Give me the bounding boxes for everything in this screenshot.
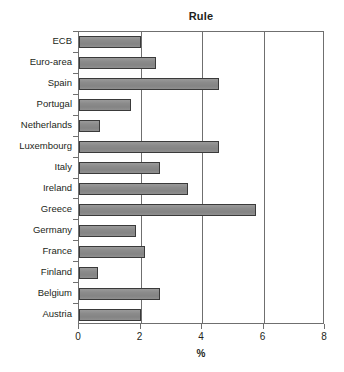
y-axis-label-finland: Finland <box>0 267 72 277</box>
bar-row <box>79 304 323 325</box>
y-axis-label-ecb: ECB <box>0 36 72 46</box>
bar-ireland <box>79 183 188 195</box>
bars-layer <box>79 32 323 323</box>
bar-france <box>79 246 145 258</box>
bar-austria <box>79 309 141 321</box>
bar-row <box>79 53 323 74</box>
bar-belgium <box>79 288 160 300</box>
bar-ecb <box>79 36 141 48</box>
x-axis-label-0: 0 <box>63 331 93 342</box>
bar-row <box>79 137 323 158</box>
y-axis-label-portugal: Portugal <box>0 99 72 109</box>
bar-germany <box>79 225 136 237</box>
bar-finland <box>79 267 98 279</box>
y-axis-label-greece: Greece <box>0 204 72 214</box>
y-axis-label-spain: Spain <box>0 78 72 88</box>
bar-row <box>79 199 323 220</box>
bar-row <box>79 262 323 283</box>
x-axis-tick-8 <box>324 324 325 329</box>
bar-row <box>79 241 323 262</box>
x-axis-title: % <box>78 348 324 359</box>
bar-row <box>79 283 323 304</box>
y-axis-label-france: France <box>0 246 72 256</box>
y-axis-label-germany: Germany <box>0 225 72 235</box>
bar-euro-area <box>79 57 156 69</box>
bar-portugal <box>79 99 131 111</box>
plot-area <box>78 31 324 324</box>
bar-row <box>79 95 323 116</box>
bar-italy <box>79 162 160 174</box>
bar-row <box>79 32 323 53</box>
bar-row <box>79 116 323 137</box>
y-axis-label-ireland: Ireland <box>0 183 72 193</box>
y-axis-label-luxembourg: Luxembourg <box>0 141 72 151</box>
x-axis-label-6: 6 <box>248 331 278 342</box>
bar-row <box>79 179 323 200</box>
y-axis-category-labels: ECBEuro-areaSpainPortugalNetherlandsLuxe… <box>0 31 72 324</box>
x-axis-tick-4 <box>201 324 202 329</box>
bar-row <box>79 158 323 179</box>
y-axis-label-netherlands: Netherlands <box>0 120 72 130</box>
bar-row <box>79 220 323 241</box>
x-axis-tick-2 <box>140 324 141 329</box>
bar-spain <box>79 78 219 90</box>
y-axis-label-belgium: Belgium <box>0 288 72 298</box>
x-axis-label-4: 4 <box>186 331 216 342</box>
bar-netherlands <box>79 120 100 132</box>
y-axis-label-austria: Austria <box>0 309 72 319</box>
chart-title: Rule <box>78 10 324 22</box>
x-axis-label-2: 2 <box>125 331 155 342</box>
x-axis-label-8: 8 <box>309 331 339 342</box>
bar-row <box>79 74 323 95</box>
bar-luxembourg <box>79 141 219 153</box>
y-axis-label-italy: Italy <box>0 162 72 172</box>
x-axis-tick-0 <box>78 324 79 329</box>
bar-greece <box>79 204 256 216</box>
x-axis-tick-6 <box>263 324 264 329</box>
chart-figure: Rule ECBEuro-areaSpainPortugalNetherland… <box>0 0 344 372</box>
y-axis-label-euro-area: Euro-area <box>0 57 72 67</box>
